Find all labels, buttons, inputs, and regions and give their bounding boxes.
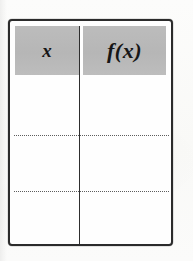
column-header-fx: f(x) — [83, 26, 166, 75]
row-separator — [14, 135, 169, 136]
function-table: x f(x) — [8, 19, 173, 246]
column-header-fx-label: f(x) — [107, 40, 142, 62]
table-header-row: x f(x) — [10, 21, 171, 75]
row-separator — [14, 191, 169, 192]
column-header-x-label: x — [42, 41, 52, 60]
table-body — [10, 75, 171, 244]
column-header-x: x — [15, 26, 79, 75]
